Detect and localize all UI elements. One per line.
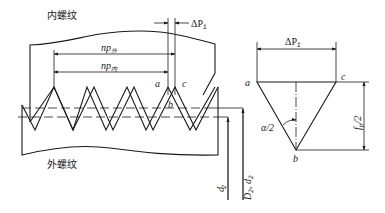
point-c-label: c bbox=[182, 78, 187, 89]
left-figure: ΔPΣ np外 np内 a c b 内螺纹 外螺纹 D2, d2 d′2 bbox=[18, 9, 254, 201]
fp-label: fp/2 bbox=[352, 116, 365, 130]
half-angle-arc bbox=[283, 120, 296, 125]
right-figure: ΔPΣ α/2 a c b fp/2 bbox=[245, 36, 369, 164]
point-b-label: b bbox=[168, 99, 173, 110]
external-thread-outline bbox=[22, 87, 218, 155]
tri-point-c-label: c bbox=[341, 71, 346, 82]
np-int-label: np内 bbox=[101, 60, 118, 72]
point-a-label: a bbox=[155, 78, 160, 89]
error-triangle bbox=[257, 82, 336, 150]
half-angle-label: α/2 bbox=[261, 122, 274, 133]
internal-thread-outline bbox=[30, 31, 215, 122]
tri-point-a-label: a bbox=[245, 77, 250, 88]
external-thread-label: 外螺纹 bbox=[47, 158, 77, 170]
delta-p-label-top: ΔPΣ bbox=[191, 18, 207, 30]
pitch-diameter-label: D2, d2 bbox=[242, 175, 254, 201]
thread-diagram: ΔPΣ np外 np内 a c b 内螺纹 外螺纹 D2, d2 d′2 bbox=[0, 0, 385, 213]
d2-prime-label: d′2 bbox=[215, 185, 227, 192]
np-ext-label: np外 bbox=[101, 42, 118, 54]
delta-p-label-right: ΔPΣ bbox=[285, 36, 301, 48]
internal-thread-label: 内螺纹 bbox=[47, 9, 77, 21]
external-thread-teeth bbox=[22, 87, 218, 130]
tri-point-b-label: b bbox=[293, 153, 298, 164]
